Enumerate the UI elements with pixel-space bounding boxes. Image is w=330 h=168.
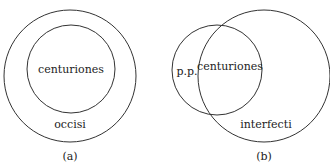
caption-a: (a): [62, 150, 77, 163]
label-centuriones-a: centuriones: [38, 63, 104, 76]
diagram-a: centuriones occisi (a): [4, 10, 136, 163]
label-centuriones-b: centuriones: [197, 60, 263, 73]
venn-diagrams: centuriones occisi (a) p.p. centuriones …: [0, 0, 330, 168]
caption-b: (b): [256, 150, 272, 163]
label-occisi: occisi: [54, 118, 86, 131]
diagram-b: p.p. centuriones interfecti (b): [172, 10, 330, 163]
label-pp: p.p.: [176, 65, 197, 78]
label-interfecti: interfecti: [240, 118, 292, 131]
